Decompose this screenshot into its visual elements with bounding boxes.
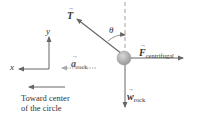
x-axis-label: x xyxy=(10,63,14,72)
rock xyxy=(117,51,131,65)
y-axis-label: y xyxy=(46,27,50,36)
angle-label: θ xyxy=(109,26,113,35)
caption-line-2: of the circle xyxy=(21,103,70,113)
free-body-diagram: T θ Fcentrifugal wrock arock y x Toward … xyxy=(0,0,198,120)
tension-label: T xyxy=(67,6,73,22)
weight-label: wrock xyxy=(127,87,145,104)
theta-arc xyxy=(108,35,125,41)
caption: Toward center of the circle xyxy=(21,93,70,113)
centrifugal-force-label: Fcentrifugal xyxy=(139,43,174,60)
acceleration-label: arock xyxy=(71,54,88,71)
caption-line-1: Toward center xyxy=(21,93,70,103)
